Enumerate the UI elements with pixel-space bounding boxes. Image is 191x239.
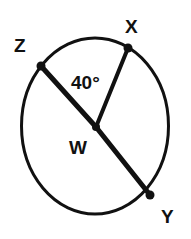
vertex-label-w: W bbox=[69, 138, 87, 157]
vertex-label-y: Y bbox=[161, 207, 174, 226]
vertex-label-z: Z bbox=[14, 36, 26, 55]
point-marker-X bbox=[124, 44, 133, 53]
point-marker-Z bbox=[37, 62, 46, 71]
geometry-canvas bbox=[0, 0, 191, 239]
vertex-label-x: X bbox=[125, 17, 138, 36]
circle-geometry-diagram: Z X W Y 40° bbox=[0, 0, 191, 239]
point-marker-W bbox=[92, 123, 100, 131]
angle-measure-label-zwx: 40° bbox=[71, 73, 100, 92]
point-marker-Y bbox=[146, 191, 155, 200]
